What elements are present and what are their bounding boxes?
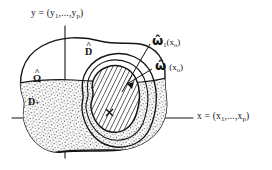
dplus-suffix: +	[35, 99, 39, 107]
y-axis-label: y = (y1,...,yp)	[31, 9, 83, 20]
diagram-canvas	[0, 0, 272, 170]
band-region-label: ^ Ω	[33, 74, 41, 84]
omega1-arg-close: )	[177, 37, 180, 47]
band-lower-label: D+	[28, 97, 39, 107]
callout-omega1-label: ω̂1(xo)	[152, 34, 180, 49]
x-axis-label: x = (x1,...,xp)	[197, 112, 249, 123]
figure-root: y = (y1,...,yp) x = (x1,...,xp) ^ D ^ Ω …	[0, 0, 272, 170]
y-axis-label-prefix: y = (y	[31, 8, 55, 18]
omega-hat-glyph: ^ Ω	[33, 74, 41, 84]
omega-hat-hat: ^	[34, 68, 39, 77]
omega1-arg-open: (x	[167, 37, 175, 47]
omega-symbol: ω̂	[155, 58, 166, 73]
y-axis-label-suffix: )	[80, 8, 83, 18]
y-axis-label-mid: ,...,y	[59, 8, 77, 18]
dhat-glyph: ^ D	[85, 47, 92, 57]
omega1-symbol: ω̂	[152, 33, 163, 48]
x-axis-label-suffix: )	[246, 111, 249, 121]
omega-arg-close: )	[180, 62, 183, 72]
omega-arg-open: (x	[169, 62, 177, 72]
x-axis-label-mid: ,...,x	[225, 111, 243, 121]
outer-region-label: ^ D	[85, 47, 92, 57]
callout-omega-label: ω̂(xo)	[155, 59, 183, 74]
x-axis-label-prefix: x = (x	[197, 111, 221, 121]
dhat-hat: ^	[86, 41, 91, 50]
